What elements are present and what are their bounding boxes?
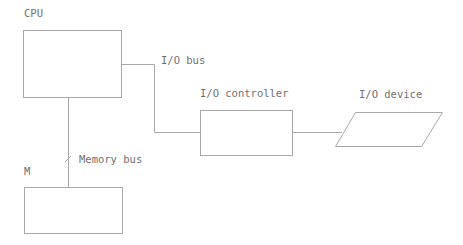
io-device-parallelogram: [336, 113, 443, 147]
io-bus-line: [122, 65, 200, 133]
memory-bus-label: Memory bus: [79, 153, 142, 165]
io-device-label: I/O device: [359, 88, 422, 100]
cpu-label: CPU: [24, 7, 43, 19]
system-diagram: CPU I/O bus I/O controller I/O device Me…: [0, 0, 463, 245]
io-controller-box: [201, 111, 293, 156]
io-controller-label: I/O controller: [200, 87, 289, 99]
cpu-box: [24, 31, 122, 98]
io-bus-label: I/O bus: [161, 54, 205, 66]
memory-label: M: [24, 165, 30, 177]
memory-box: [25, 188, 123, 234]
